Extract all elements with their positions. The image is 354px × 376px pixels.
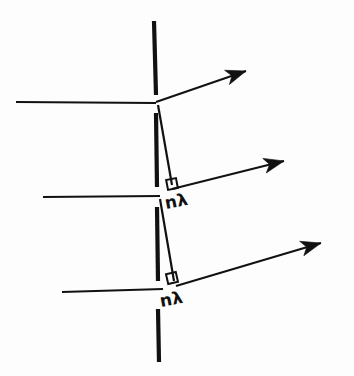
normal-dash-lower [157,207,158,281]
bragg-diffraction-diagram: nλnλ [0,0,354,376]
incident-ray-top [16,102,156,103]
normal-dash-bottom [158,309,159,362]
diagram-canvas: nλnλ [0,0,354,376]
normal-dash-middle [156,113,157,187]
normal-dash-top [154,21,156,95]
incident-ray-middle [43,196,160,197]
